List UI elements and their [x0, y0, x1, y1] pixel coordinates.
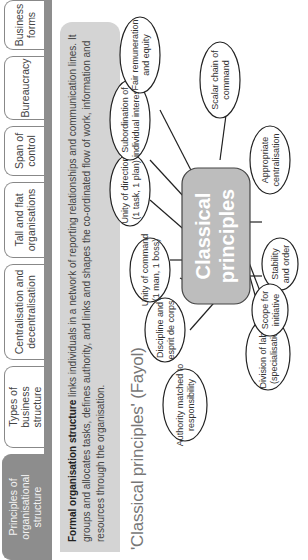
svg-text:and order: and order	[281, 245, 291, 284]
svg-text:Scope for: Scope for	[260, 291, 270, 330]
center-node: Classical principles	[182, 168, 250, 304]
svg-text:Unity of direction: Unity of direction	[120, 156, 130, 223]
node-unity-of-direction: Unity of direction(1 task, 1 plan)	[110, 154, 150, 226]
svg-text:Discipline and: Discipline and	[155, 302, 165, 358]
center-label-line1: Classical	[192, 193, 214, 280]
svg-text:Appropriate: Appropriate	[260, 137, 270, 184]
svg-text:esprit de corps: esprit de corps	[166, 300, 176, 360]
svg-text:Fair remuneration: Fair remuneration	[130, 19, 140, 90]
center-label-line2: principles	[216, 189, 238, 283]
node-fair-remuneration: Fair remunerationand equity	[120, 17, 160, 93]
svg-text:Stability: Stability	[270, 248, 280, 280]
svg-text:(1 man, 1 boss): (1 man, 1 boss)	[151, 239, 161, 302]
node-unity-of-command: Unity of command(1 man, 1 boss)	[130, 234, 170, 307]
svg-text:initiative: initiative	[271, 294, 281, 327]
svg-text:Unity of command: Unity of command	[140, 234, 150, 307]
node-stability: Stabilityand order	[262, 238, 298, 290]
classical-principles-diagram: Classical principles Division of labour(…	[0, 0, 308, 560]
svg-text:(1 task, 1 plan): (1 task, 1 plan)	[131, 160, 141, 220]
svg-text:Subordination of: Subordination of	[120, 87, 130, 153]
svg-text:centralisation: centralisation	[271, 133, 281, 186]
node-discipline: Discipline andesprit de corps	[145, 298, 185, 362]
svg-text:responsibility: responsibility	[186, 378, 196, 431]
svg-text:individual interests: individual interests	[131, 82, 141, 157]
svg-text:Authority matched to: Authority matched to	[175, 364, 185, 447]
page: Principles of organisational structure T…	[0, 0, 308, 560]
node-authority-matched: Authority matched toresponsibility	[163, 364, 207, 447]
svg-text:and equity: and equity	[141, 34, 151, 76]
node-appropriate-centralisation: Appropriatecentralisation	[250, 126, 290, 194]
node-scalar-chain: Scalar chain ofcommand	[200, 42, 240, 118]
svg-text:command: command	[221, 60, 231, 100]
node-scope-for-initiative: Scope forinitiative	[252, 284, 288, 336]
svg-text:Scalar chain of: Scalar chain of	[210, 50, 220, 110]
